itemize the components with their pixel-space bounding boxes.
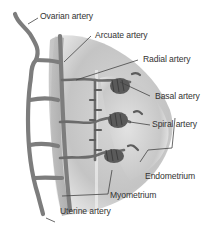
label-arcuate-artery: Arcuate artery	[95, 31, 148, 40]
label-basal-artery: Basal artery	[155, 92, 200, 101]
label-uterine-artery: Uterine artery	[60, 207, 111, 216]
label-myometrium: Myometrium	[110, 191, 156, 200]
label-endometrium: Endometrium	[145, 172, 195, 181]
label-ovarian-artery: Ovarian artery	[40, 12, 93, 21]
label-spiral-artery: Spiral artery	[152, 120, 197, 129]
label-radial-artery: Radial artery	[143, 55, 190, 64]
uterine-artery-diagram: Ovarian artery Arcuate artery Radial art…	[0, 0, 215, 229]
